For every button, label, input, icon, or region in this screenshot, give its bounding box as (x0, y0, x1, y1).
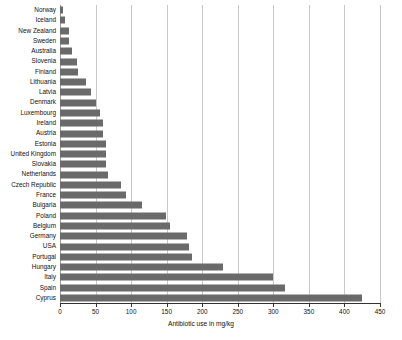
x-tick-label: 300 (268, 308, 279, 315)
bar-row (60, 211, 380, 221)
category-label: Poland (0, 211, 56, 221)
bar (60, 37, 69, 44)
bar-row (60, 252, 380, 262)
bar-row (60, 26, 380, 36)
bar (60, 223, 170, 230)
bar (60, 17, 65, 24)
bar (60, 253, 192, 260)
category-label: Hungary (0, 262, 56, 272)
category-label: Spain (0, 283, 56, 293)
x-axis-title: Antibiotic use in mg/kg (0, 320, 402, 327)
category-label: Slovakia (0, 159, 56, 169)
category-label: Austria (0, 128, 56, 138)
bar (60, 109, 100, 116)
category-label: Estonia (0, 139, 56, 149)
x-tick-label: 100 (126, 308, 137, 315)
bar (60, 140, 106, 147)
bar (60, 79, 86, 86)
bar-row (60, 36, 380, 46)
bar-row (60, 98, 380, 108)
x-tick-400 (344, 304, 345, 307)
x-tick-label: 0 (58, 308, 62, 315)
x-tick-label: 350 (304, 308, 315, 315)
x-tick-450 (380, 304, 381, 307)
bar-row (60, 77, 380, 87)
plot-area (60, 5, 380, 303)
category-label: Denmark (0, 98, 56, 108)
bar-row (60, 5, 380, 15)
bar-row (60, 221, 380, 231)
category-label: Belgium (0, 221, 56, 231)
x-tick-label: 450 (375, 308, 386, 315)
bar (60, 120, 103, 127)
bar (60, 181, 121, 188)
bar-row (60, 149, 380, 159)
bar-row (60, 46, 380, 56)
x-tick-label: 200 (197, 308, 208, 315)
x-tick-label: 250 (232, 308, 243, 315)
category-label: Sweden (0, 36, 56, 46)
bar (60, 284, 285, 291)
bar-row (60, 231, 380, 241)
bar (60, 202, 142, 209)
category-axis-labels: NorwayIcelandNew ZealandSwedenAustraliaS… (0, 5, 56, 303)
bar (60, 99, 96, 106)
bar (60, 274, 273, 281)
bar-row (60, 241, 380, 251)
bar (60, 89, 91, 96)
x-tick-label: 150 (161, 308, 172, 315)
bar (60, 151, 106, 158)
category-label: New Zealand (0, 26, 56, 36)
bar-row (60, 262, 380, 272)
bar (60, 243, 189, 250)
category-label: Czech Republic (0, 180, 56, 190)
bar (60, 48, 72, 55)
category-label: Netherlands (0, 170, 56, 180)
x-tick-250 (238, 304, 239, 307)
bar-row (60, 293, 380, 303)
category-label: Cyprus (0, 293, 56, 303)
category-label: Lithuania (0, 77, 56, 87)
x-tick-100 (131, 304, 132, 307)
bar-row (60, 56, 380, 66)
x-tick-0 (60, 304, 61, 307)
bar-row (60, 170, 380, 180)
x-tick-label: 50 (92, 308, 99, 315)
category-label: Latvia (0, 87, 56, 97)
x-tick-label: 400 (339, 308, 350, 315)
bar (60, 192, 126, 199)
x-axis-tick-labels: 050100150200250300350400450 (60, 308, 380, 318)
bar-row (60, 272, 380, 282)
bar-row (60, 200, 380, 210)
bar-row (60, 67, 380, 77)
bar-row (60, 190, 380, 200)
bar (60, 161, 106, 168)
x-tick-300 (273, 304, 274, 307)
category-label: Luxembourg (0, 108, 56, 118)
bar (60, 171, 108, 178)
category-label: Bulgaria (0, 200, 56, 210)
x-tick-200 (202, 304, 203, 307)
bar (60, 130, 103, 137)
category-label: Finland (0, 67, 56, 77)
bar (60, 68, 78, 75)
bar (60, 58, 77, 65)
bar-row (60, 15, 380, 25)
x-tick-350 (309, 304, 310, 307)
category-label: USA (0, 241, 56, 251)
bar (60, 264, 223, 271)
bar (60, 295, 362, 302)
category-label: Slovenia (0, 56, 56, 66)
category-label: Italy (0, 272, 56, 282)
gridline-450 (380, 5, 381, 303)
bar-row (60, 128, 380, 138)
category-label: Ireland (0, 118, 56, 128)
bar (60, 27, 69, 34)
category-label: France (0, 190, 56, 200)
x-tick-50 (96, 304, 97, 307)
bar (60, 7, 63, 14)
bar-row (60, 283, 380, 293)
category-label: Germany (0, 231, 56, 241)
bar (60, 233, 187, 240)
bar-row (60, 108, 380, 118)
